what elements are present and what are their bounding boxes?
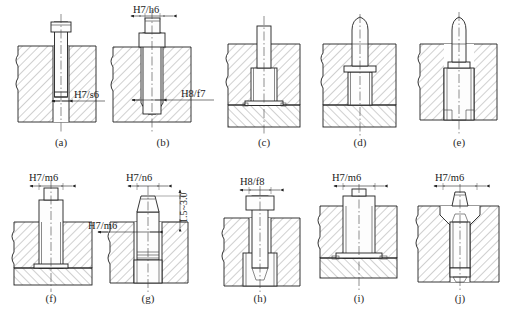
caption-i: (i) (339, 292, 379, 304)
height-label-g: 1.5~3.0 (178, 193, 189, 223)
fit-label-g-top: H7/n6 (126, 172, 152, 183)
fit-label-i-top: H7/m6 (332, 172, 361, 183)
caption-c: (c) (244, 136, 284, 148)
panel-d-drawing (321, 14, 396, 136)
fit-label-b-top: H7/h6 (133, 4, 159, 15)
fit-label-h-top: H8/f8 (240, 176, 265, 187)
fit-label-b-leader: H8/f7 (181, 88, 206, 99)
drawing-canvas (0, 0, 515, 310)
caption-d: (d) (340, 136, 380, 148)
fit-label-a: H7/s6 (74, 89, 99, 100)
caption-j: (j) (440, 292, 480, 304)
panel-c-drawing (226, 16, 300, 136)
panel-g-drawing (98, 183, 188, 292)
panel-a-drawing (16, 14, 105, 134)
panel-b-drawing (111, 10, 214, 134)
panel-h-drawing (222, 186, 300, 292)
fit-label-f-top: H7/m6 (29, 172, 58, 183)
panel-f-drawing (12, 180, 92, 292)
panel-j-drawing (416, 183, 499, 292)
fit-label-j-top: H7/m6 (435, 172, 464, 183)
engineering-drawing-figure: H7/s6 H7/h6 H8/f7 H7/m6 H7/n6 H7/m6 1.5~… (0, 0, 515, 310)
fit-label-g-leader: H7/m6 (88, 220, 117, 231)
panel-e-drawing (418, 12, 497, 136)
caption-h: (h) (240, 292, 280, 304)
caption-a: (a) (41, 136, 81, 148)
caption-f: (f) (31, 292, 71, 304)
panel-i-drawing (318, 183, 397, 292)
caption-b: (b) (143, 136, 183, 148)
caption-e: (e) (439, 136, 479, 148)
caption-g: (g) (128, 292, 168, 304)
